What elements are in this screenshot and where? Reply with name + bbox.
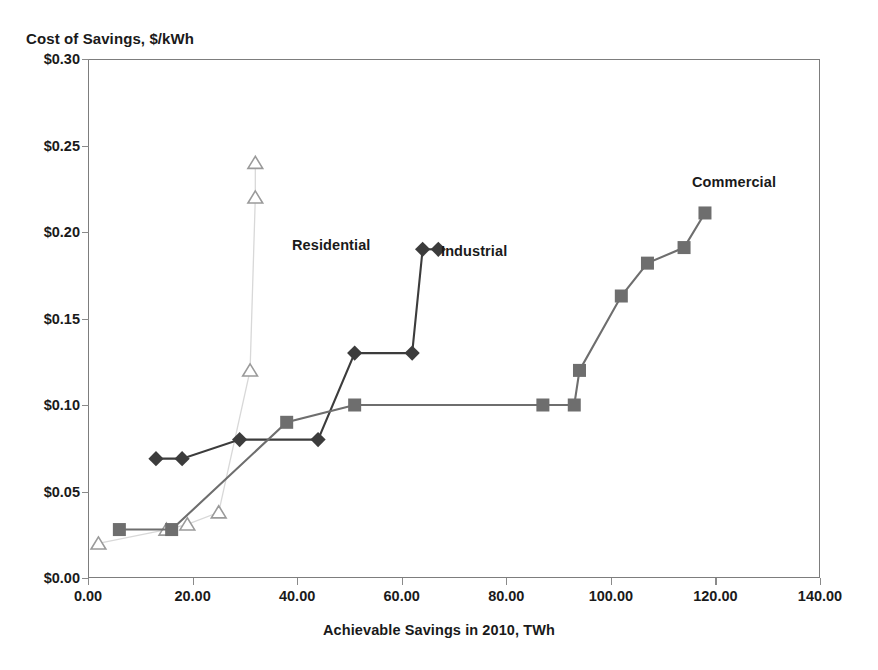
chart-figure: Cost of Savings, $/kWh $0.00$0.05$0.10$0…: [0, 0, 878, 670]
y-axis-tick-mark: [82, 492, 89, 493]
y-axis-tick-label: $0.25: [10, 138, 80, 154]
series-label-commercial: Commercial: [692, 174, 776, 190]
x-axis-tick-mark: [715, 578, 716, 585]
y-axis-tick-mark: [82, 146, 89, 147]
y-axis-tick-mark: [82, 405, 89, 406]
y-axis-tick-label: $0.05: [10, 484, 80, 500]
y-axis-tick-label: $0.30: [10, 51, 80, 67]
y-axis-title: Cost of Savings, $/kWh: [26, 30, 194, 47]
x-axis-tick-label: 140.00: [775, 588, 865, 604]
x-axis-tick-mark: [506, 578, 507, 585]
series-label-residential: Residential: [292, 237, 370, 253]
x-axis-tick-mark: [402, 578, 403, 585]
x-axis-tick-mark: [611, 578, 612, 585]
y-axis-tick-mark: [82, 59, 89, 60]
x-axis-tick-label: 60.00: [357, 588, 447, 604]
y-axis-tick-mark: [82, 319, 89, 320]
x-axis-tick-mark: [88, 578, 89, 585]
y-axis-tick-label: $0.15: [10, 311, 80, 327]
x-axis-tick-label: 120.00: [670, 588, 760, 604]
y-axis-tick-label: $0.00: [10, 570, 80, 586]
x-axis-tick-label: 80.00: [461, 588, 551, 604]
x-axis-title: Achievable Savings in 2010, TWh: [0, 622, 878, 638]
x-axis-tick-label: 0.00: [43, 588, 133, 604]
x-axis-tick-label: 40.00: [252, 588, 342, 604]
x-axis-tick-mark: [820, 578, 821, 585]
y-axis-tick-mark: [82, 232, 89, 233]
x-axis-tick-mark: [297, 578, 298, 585]
plot-area: [88, 59, 820, 578]
x-axis-tick-label: 100.00: [566, 588, 656, 604]
y-axis-tick-label: $0.10: [10, 397, 80, 413]
x-axis-tick-label: 20.00: [148, 588, 238, 604]
series-label-industrial: Industrial: [441, 243, 507, 259]
x-axis-tick-mark: [193, 578, 194, 585]
y-axis-tick-label: $0.20: [10, 224, 80, 240]
